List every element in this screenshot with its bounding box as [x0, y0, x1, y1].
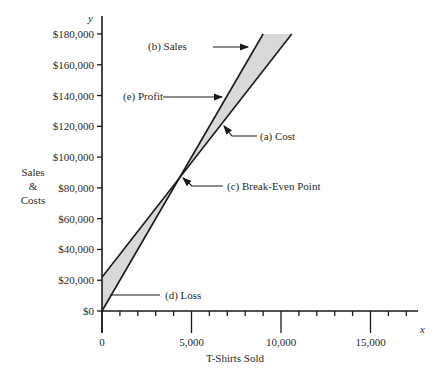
y-tick-label: $100,000	[53, 151, 95, 163]
sales-line	[102, 34, 263, 311]
y-tick-label: $60,000	[58, 213, 94, 225]
y-tick-label: $0	[83, 305, 95, 317]
annotations: (b) Sales(e) Profit(a) Cost(c) Break-Eve…	[110, 40, 320, 302]
annotation-sales: (b) Sales	[148, 40, 187, 53]
y-axis-title-line-2: &	[29, 180, 38, 192]
y-axis-title-line-1: Sales	[21, 166, 44, 178]
annotation-cost: (a) Cost	[260, 130, 295, 143]
y-tick-label: $20,000	[58, 274, 94, 286]
x-tick-label: 15,000	[355, 336, 386, 348]
annotation-break-even: (c) Break-Even Point	[227, 180, 320, 193]
break-even-arrow	[183, 178, 223, 186]
y-tick-label: $120,000	[53, 120, 95, 132]
annotation-profit: (e) Profit	[123, 90, 163, 103]
series-lines	[102, 34, 292, 311]
x-tick-label: 5,000	[179, 336, 204, 348]
y-axis-title-line-3: Costs	[21, 194, 45, 206]
x-tick-label: 0	[99, 336, 105, 348]
y-tick-label: $40,000	[58, 243, 94, 255]
x-axis-letter: x	[419, 323, 425, 335]
x-tick-label: 10,000	[266, 336, 297, 348]
cost-arrow	[224, 126, 257, 136]
x-axis-title: T-Shirts Sold	[206, 352, 264, 364]
cost-line	[102, 34, 292, 277]
y-tick-label: $160,000	[53, 59, 95, 71]
y-tick-label: $180,000	[53, 28, 95, 40]
annotation-loss: (d) Loss	[165, 289, 201, 302]
y-axis-letter: y	[87, 12, 93, 24]
y-tick-label: $140,000	[53, 90, 95, 102]
shaded-regions	[102, 34, 292, 311]
y-tick-label: $80,000	[58, 182, 94, 194]
break-even-chart: $0$20,000$40,000$60,000$80,000$100,000$1…	[0, 0, 439, 380]
